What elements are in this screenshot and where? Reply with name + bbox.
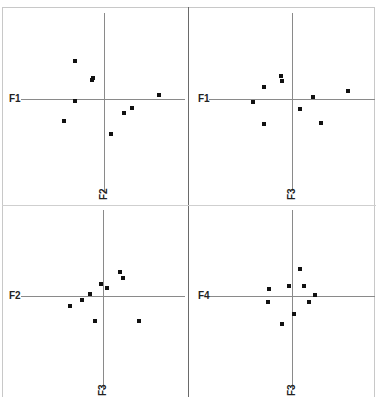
data-point	[266, 300, 270, 304]
data-point	[157, 93, 161, 97]
data-point	[62, 119, 66, 123]
data-point	[280, 79, 284, 83]
data-point	[73, 99, 77, 103]
data-point	[137, 319, 141, 323]
data-point	[122, 111, 126, 115]
data-point	[279, 74, 283, 78]
data-point	[80, 298, 84, 302]
y-axis-label: F2	[99, 188, 109, 200]
data-point	[267, 287, 271, 291]
data-point	[73, 59, 77, 63]
data-point	[93, 319, 97, 323]
data-point	[311, 95, 315, 99]
y-axis-line	[104, 13, 105, 191]
data-point	[99, 282, 103, 286]
y-axis-label: F3	[98, 384, 108, 396]
data-point	[287, 284, 291, 288]
data-point	[262, 85, 266, 89]
data-point	[302, 284, 306, 288]
data-point	[346, 89, 350, 93]
y-axis-line	[103, 210, 104, 390]
y-axis-line	[292, 13, 293, 191]
data-point	[121, 276, 125, 280]
data-point	[105, 286, 109, 290]
x-axis-label: F1	[198, 94, 210, 104]
horizontal-divider	[2, 205, 376, 206]
data-point	[298, 267, 302, 271]
data-point	[319, 121, 323, 125]
data-point	[292, 312, 296, 316]
data-point	[262, 122, 266, 126]
y-axis-label: F3	[287, 188, 297, 200]
data-point	[251, 100, 255, 104]
data-point	[307, 300, 311, 304]
data-point	[298, 107, 302, 111]
y-axis-line	[292, 210, 293, 390]
data-point	[68, 304, 72, 308]
vertical-divider	[188, 7, 189, 397]
x-axis-label: F4	[198, 291, 210, 301]
x-axis-label: F2	[9, 291, 21, 301]
data-point	[118, 270, 122, 274]
data-point	[91, 76, 95, 80]
x-axis-line	[21, 99, 185, 100]
y-axis-label: F3	[287, 384, 297, 396]
data-point	[130, 106, 134, 110]
data-point	[109, 132, 113, 136]
data-point	[313, 293, 317, 297]
data-point	[280, 322, 284, 326]
x-axis-label: F1	[9, 94, 21, 104]
data-point	[88, 292, 92, 296]
